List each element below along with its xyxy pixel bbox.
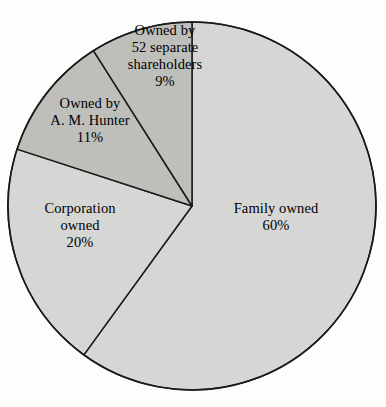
pie-slice-group <box>8 22 376 390</box>
pie-chart-canvas <box>0 0 386 407</box>
pie-chart-figure: Owned by 52 separate shareholders 9% Own… <box>0 0 386 407</box>
